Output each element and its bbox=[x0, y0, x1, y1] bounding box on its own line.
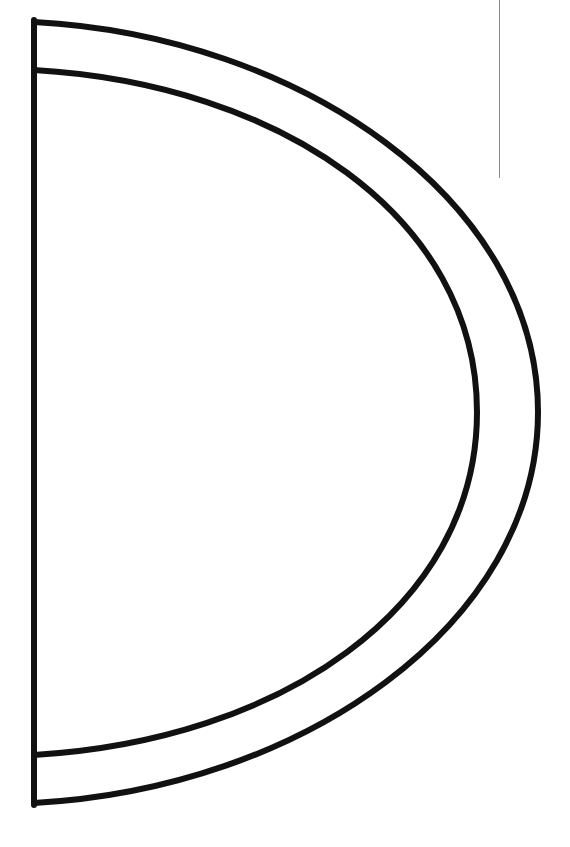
axis-group: number of seeds bbox=[494, 0, 570, 200]
screenshot-root: number of seeds bbox=[0, 0, 570, 847]
outer-arc-path bbox=[34, 22, 538, 803]
axis-line bbox=[499, 0, 500, 178]
inner-arc-path bbox=[34, 70, 477, 755]
half-moon-figure bbox=[0, 0, 570, 847]
